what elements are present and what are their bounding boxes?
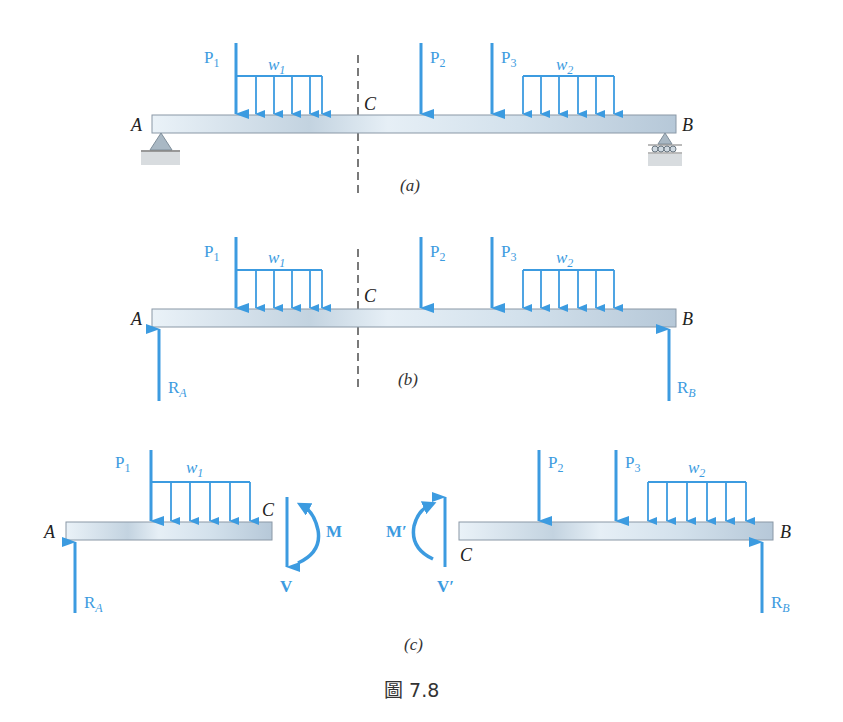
point-a-label: A	[130, 309, 143, 329]
w2-label: w2	[688, 458, 705, 480]
point-c-label: C	[364, 94, 377, 114]
roller-support-icon	[648, 133, 682, 166]
point-b-label: B	[682, 115, 693, 135]
w2-distributed-load	[523, 76, 614, 114]
p2-label: P2	[548, 453, 563, 475]
panel-a: P1 w1 P2 P3 w2 A B C (a)	[130, 43, 693, 196]
point-a-label: A	[130, 115, 143, 135]
m-prime-label: M′	[386, 522, 407, 541]
w2-distributed-load	[648, 482, 746, 521]
p3-label: P3	[501, 48, 516, 70]
beam	[459, 522, 773, 540]
w1-label: w1	[268, 55, 285, 77]
beam	[152, 115, 676, 133]
rb-label: RB	[771, 593, 790, 615]
rb-label: RB	[677, 378, 696, 400]
panel-b: P1 w1 P2 P3 w2 RA RB A B C (b)	[130, 237, 696, 401]
panel-b-caption: (b)	[398, 370, 418, 389]
point-c-label: C	[460, 545, 473, 565]
ra-label: RA	[84, 593, 103, 615]
panel-c-caption: (c)	[404, 635, 423, 654]
panel-c: P1 w1 RA V M A C	[43, 450, 791, 654]
beam	[152, 309, 676, 327]
v-label: V	[280, 577, 293, 596]
moment-m-arrow	[298, 506, 319, 563]
w1-label: w1	[186, 458, 203, 480]
point-c-label: C	[262, 500, 275, 520]
v-prime-label: V′	[437, 577, 454, 596]
p2-label: P2	[430, 48, 445, 70]
w1-distributed-load	[236, 76, 322, 114]
p3-label: P3	[501, 242, 516, 264]
panel-a-caption: (a)	[400, 176, 420, 195]
left-segment-ac: P1 w1 RA V M A C	[43, 450, 342, 615]
p2-label: P2	[430, 242, 445, 264]
point-b-label: B	[780, 522, 791, 542]
p1-label: P1	[204, 242, 219, 264]
w2-distributed-load	[523, 270, 614, 308]
beam-free-body-diagram: P1 w1 P2 P3 w2 A B C (a)	[0, 0, 843, 722]
pin-support-icon	[141, 133, 180, 165]
ra-label: RA	[168, 378, 187, 400]
w1-distributed-load	[151, 482, 250, 521]
p3-label: P3	[625, 453, 640, 475]
figure-caption: 圖 7.8	[384, 679, 439, 701]
point-a-label: A	[43, 522, 56, 542]
m-label: M	[326, 522, 342, 541]
w1-distributed-load	[236, 270, 322, 308]
p1-label: P1	[204, 48, 219, 70]
moment-m-prime-arrow	[413, 505, 433, 559]
p1-label: P1	[115, 453, 130, 475]
w1-label: w1	[268, 248, 285, 270]
w2-label: w2	[556, 248, 573, 270]
right-segment-cb: P2 P3 w2 RB V′ M′ B C	[386, 450, 791, 615]
point-b-label: B	[682, 309, 693, 329]
point-c-label: C	[364, 286, 377, 306]
w2-label: w2	[556, 55, 573, 77]
beam	[66, 522, 272, 540]
